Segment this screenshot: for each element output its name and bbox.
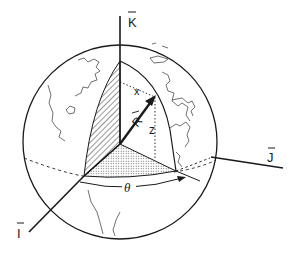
r-arrowhead — [145, 95, 156, 106]
i-axis — [29, 176, 84, 232]
equator-back — [24, 158, 83, 176]
i-axis-label: I — [17, 226, 21, 241]
x-component-label: x — [134, 85, 140, 97]
z-component-label: z — [149, 123, 155, 137]
k-axis-label: K — [128, 15, 137, 30]
theta-arrowhead — [177, 176, 186, 182]
equator-back-right — [174, 160, 216, 172]
j-axis-label: J — [267, 150, 274, 165]
globe-diagram: K I J R x z θ — [0, 0, 296, 256]
continent-outlines — [48, 43, 195, 236]
theta-label: θ — [124, 180, 131, 195]
